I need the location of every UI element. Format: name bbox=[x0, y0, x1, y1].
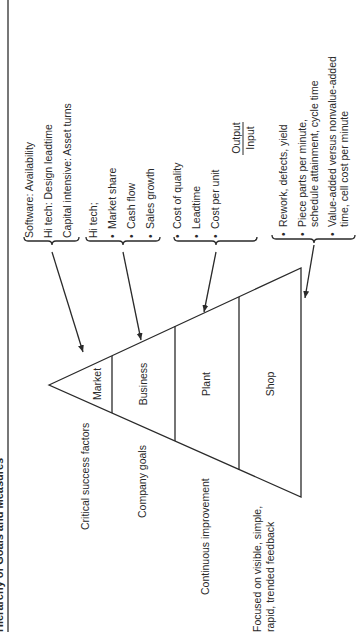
output-input-fraction: Output Input bbox=[230, 122, 256, 155]
label-critical-success-factors: Critical success factors bbox=[79, 423, 91, 530]
level-shop: Shop bbox=[264, 372, 276, 397]
measure-bullet-cont: time, cell cost per minute bbox=[338, 111, 350, 227]
measures-business: Hi tech; • Market share • Cash flow • Sa… bbox=[86, 168, 160, 340]
measures-market: Software: Availability Hi tech: Design l… bbox=[23, 103, 83, 352]
bullet-icon: • bbox=[171, 234, 183, 238]
bullet-icon: • bbox=[326, 232, 338, 236]
measure-line: Capital intensive: Asset turns bbox=[61, 103, 73, 238]
bullet-icon: • bbox=[296, 232, 308, 236]
measure-bullet: Value-added versus nonvalue-added bbox=[326, 56, 338, 227]
level-business: Business bbox=[137, 363, 149, 406]
level-market: Market bbox=[91, 368, 103, 400]
measure-bullet: Piece parts per minute, bbox=[296, 119, 308, 227]
measure-bullet-cont: schedule attainment, cycle time bbox=[308, 80, 320, 227]
measures-shop: • Rework, defects, yield • Piece parts p… bbox=[272, 56, 355, 298]
measure-bullet: Rework, defects, yield bbox=[277, 124, 289, 227]
label-continuous-improvement: Continuous improvement bbox=[199, 478, 211, 595]
bullet-icon: • bbox=[277, 232, 289, 236]
arrow-to-plant bbox=[204, 252, 216, 312]
arrow-to-market bbox=[52, 252, 83, 352]
bullet-icon: • bbox=[209, 234, 221, 238]
arrow-to-business bbox=[123, 252, 141, 340]
measure-heading: Hi tech; bbox=[87, 202, 99, 238]
measure-bullet: Cost of quality bbox=[171, 162, 183, 229]
measure-bullet: Leadtime bbox=[190, 186, 202, 229]
measure-bullet: Market share bbox=[106, 168, 118, 229]
bullet-icon: • bbox=[125, 234, 137, 238]
figure-title: Hierarchy of Goals and Measures bbox=[0, 458, 5, 632]
measure-line: Hi tech: Design leadtime bbox=[42, 124, 54, 238]
bullet-icon: • bbox=[190, 234, 202, 238]
fraction-numerator: Output bbox=[230, 122, 242, 154]
label-focused-line2: rapid, trended feedback bbox=[264, 521, 276, 632]
level-plant: Plant bbox=[200, 372, 212, 396]
label-company-goals: Company goals bbox=[136, 445, 148, 518]
goals-hierarchy-diagram: Hierarchy of Goals and Measures Market B… bbox=[0, 0, 361, 632]
arrow-to-shop bbox=[305, 245, 314, 298]
label-focused-line1: Focused on visible, simple, bbox=[251, 506, 263, 632]
left-labels: Critical success factors Company goals C… bbox=[79, 423, 276, 632]
bullet-icon: • bbox=[106, 234, 118, 238]
measures-plant: • Cost of quality • Leadtime • Cost per … bbox=[171, 122, 257, 312]
fraction-denominator: Input bbox=[244, 126, 256, 149]
measure-bullet: Cash flow bbox=[125, 182, 137, 229]
measure-bullet: Sales growth bbox=[144, 168, 156, 229]
measure-bullet: Cost per unit bbox=[209, 169, 221, 229]
bullet-icon: • bbox=[144, 234, 156, 238]
measure-line: Software: Availability bbox=[23, 141, 35, 238]
